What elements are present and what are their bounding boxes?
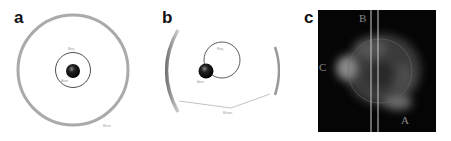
panel-label-c: c — [304, 8, 313, 28]
sphere-label-b: Atom — [197, 80, 204, 84]
right-mirror — [275, 47, 279, 95]
marker-b: B — [359, 12, 366, 24]
sphere — [199, 64, 214, 79]
sphere-label-a: Atom — [61, 79, 68, 83]
mirror-label-a: Mirror — [103, 124, 111, 128]
pointer-lines — [179, 94, 270, 108]
ring-label-b: Ring — [217, 47, 223, 51]
panel-c-image — [318, 10, 436, 132]
panel-label-b: b — [162, 8, 172, 28]
left-mirror — [167, 30, 179, 112]
ring-label-a: Ring — [68, 47, 74, 51]
panel-a-diagram — [18, 15, 128, 125]
panel-b-diagram — [167, 30, 280, 112]
marker-a: A — [401, 114, 409, 126]
figure-canvas — [0, 0, 451, 141]
marker-c: C — [319, 61, 326, 73]
panel-label-a: a — [14, 8, 23, 28]
mirrors-label-b: Mirrors — [223, 111, 232, 115]
sphere — [66, 64, 80, 78]
